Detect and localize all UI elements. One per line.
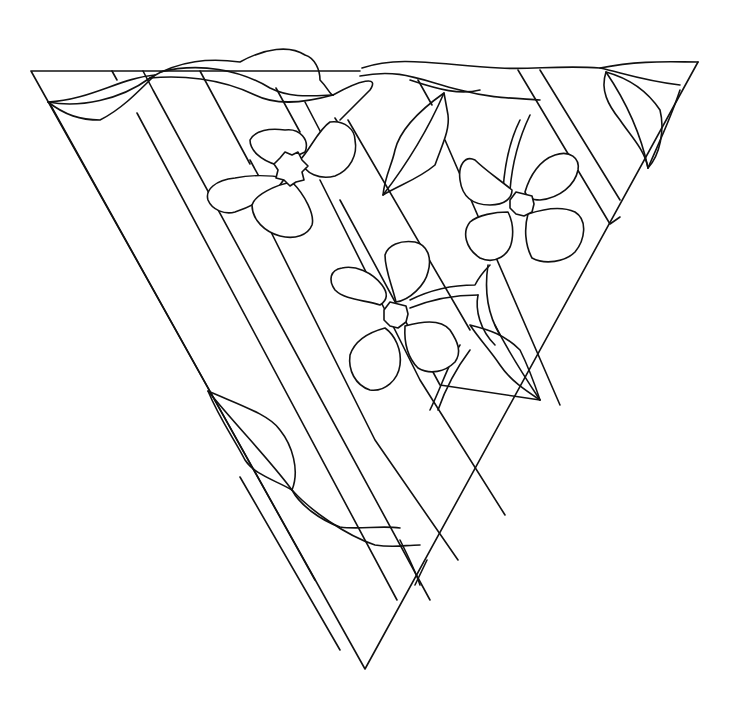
flower-center xyxy=(331,242,459,391)
line-art-canvas xyxy=(0,0,737,722)
stained-glass-drawing xyxy=(0,0,737,722)
flower-right xyxy=(460,153,584,261)
top-vine xyxy=(48,49,698,120)
flower-top-left xyxy=(207,122,355,238)
